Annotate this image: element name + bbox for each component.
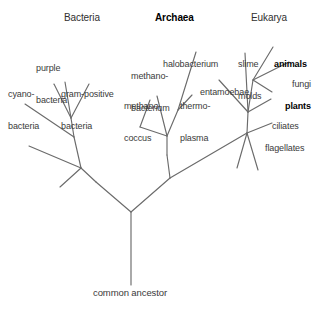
- taxon-label-slime-molds: slime molds: [238, 38, 262, 122]
- tree-of-life-diagram: Bacteria Archaea Eukarya purple bacteria…: [0, 0, 328, 310]
- branch-basal-to-archaea-eukarya: [131, 178, 170, 212]
- branch-bacteria-basal-right: [60, 168, 81, 187]
- taxon-label-cyanobacteria: cyano- bacteria: [8, 68, 39, 152]
- taxon-line: bacteria: [61, 121, 114, 132]
- taxon-line: methano-: [124, 101, 161, 112]
- taxon-label-methanococcus: methano- coccus: [124, 80, 161, 164]
- taxon-line: coccus: [124, 133, 161, 144]
- taxon-line: plasma: [180, 133, 210, 144]
- branch-archaea-stem: [167, 155, 170, 178]
- taxon-label-gram-positive-bacteria: gram-positive bacteria: [61, 68, 114, 152]
- taxon-line: bacteria: [8, 121, 39, 132]
- branch-eukarya-basal-descend-2: [247, 133, 258, 170]
- branch-bacteria-stem: [81, 168, 96, 182]
- domain-label-bacteria: Bacteria: [64, 13, 100, 24]
- taxon-line: slime: [238, 59, 262, 70]
- branch-basal-to-bacteria: [96, 182, 131, 212]
- root-label-common-ancestor: common ancestor: [93, 288, 167, 299]
- domain-label-archaea: Archaea: [155, 13, 194, 24]
- domain-label-eukarya: Eukarya: [251, 13, 287, 24]
- taxon-line: cyano-: [8, 89, 39, 100]
- taxon-line: flagellates: [265, 143, 304, 154]
- taxon-label-flagellates: flagellates: [265, 122, 304, 175]
- taxon-line: gram-positive: [61, 89, 114, 100]
- taxon-line: molds: [238, 91, 262, 102]
